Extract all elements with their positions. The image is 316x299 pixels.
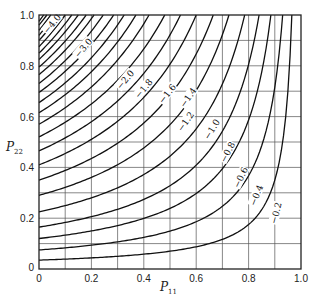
x-tick-label: 0.8 xyxy=(242,273,256,284)
svg-text:−0.2: −0.2 xyxy=(268,201,283,225)
contour-label: −1.6 xyxy=(156,81,178,105)
x-tick-label: 0.2 xyxy=(84,273,98,284)
contour-label: −1.4 xyxy=(177,85,199,110)
contour-chart: −4.0−3.0−2.0−1.8−1.6−1.4−1.2−1.0−0.8−0.6… xyxy=(0,0,316,299)
y-tick-label: 0.6 xyxy=(20,112,34,123)
contour-label: −0.4 xyxy=(247,183,265,208)
y-tick-label: 0 xyxy=(28,262,34,273)
contour-label: −1.2 xyxy=(175,109,197,134)
y-tick-label: 0.4 xyxy=(20,162,34,173)
contour-labels: −4.0−3.0−2.0−1.8−1.6−1.4−1.2−1.0−0.8−0.6… xyxy=(41,12,284,226)
y-axis-label: P22 xyxy=(5,140,23,156)
y-tick-label: 0.8 xyxy=(20,61,34,72)
y-tick-label: 1.0 xyxy=(20,10,34,21)
x-tick-label: 0.6 xyxy=(189,273,203,284)
x-axis-label: P11 xyxy=(159,280,177,296)
contour-label: −0.2 xyxy=(268,201,284,226)
svg-text:−0.4: −0.4 xyxy=(248,183,266,207)
contour-line xyxy=(39,15,259,227)
y-tick-label: 0.2 xyxy=(20,213,34,224)
x-tick-label: 0.4 xyxy=(137,273,151,284)
x-tick-label: 0 xyxy=(36,273,42,284)
contour-line xyxy=(39,15,229,195)
x-tick-label: 1.0 xyxy=(294,273,308,284)
